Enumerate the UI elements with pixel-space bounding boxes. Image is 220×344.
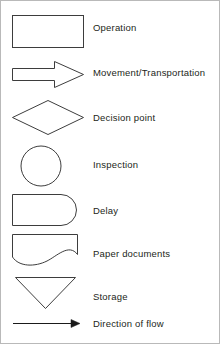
inverted-triangle-shape-icon	[7, 271, 91, 313]
shape-cell-movement	[7, 55, 91, 99]
legend-label-paper: Paper documents	[93, 248, 170, 259]
legend-row-decision: Decision point	[1, 97, 220, 139]
flowchart-legend: Operation Movement/Transportation Decisi…	[0, 0, 220, 344]
legend-label-delay: Delay	[93, 205, 118, 216]
circle-shape-icon	[7, 141, 91, 189]
shape-cell-flow	[7, 313, 91, 343]
diamond-shape-icon	[7, 97, 91, 139]
legend-label-operation: Operation	[93, 22, 136, 33]
legend-label-flow: Direction of flow	[93, 318, 164, 329]
legend-label-inspection: Inspection	[93, 159, 138, 170]
shape-cell-delay	[7, 189, 91, 231]
legend-row-operation: Operation	[1, 9, 220, 55]
shape-cell-decision	[7, 97, 91, 139]
legend-row-inspection: Inspection	[1, 141, 220, 189]
legend-row-storage: Storage	[1, 271, 220, 313]
legend-row-delay: Delay	[1, 189, 220, 231]
shape-cell-inspection	[7, 141, 91, 189]
rectangle-shape-icon	[7, 9, 91, 55]
legend-row-flow: Direction of flow	[1, 313, 220, 343]
document-shape-icon	[7, 229, 91, 271]
delay-shape-icon	[7, 189, 91, 231]
legend-row-paper: Paper documents	[1, 229, 220, 271]
right-arrow-shape-icon	[7, 55, 91, 99]
legend-label-decision: Decision point	[93, 112, 155, 123]
shape-cell-storage	[7, 271, 91, 313]
shape-cell-paper	[7, 229, 91, 271]
legend-row-movement: Movement/Transportation	[1, 55, 220, 99]
flow-arrow-icon	[7, 313, 91, 343]
legend-label-movement: Movement/Transportation	[93, 67, 205, 78]
legend-label-storage: Storage	[93, 291, 128, 302]
shape-cell-operation	[7, 9, 91, 55]
